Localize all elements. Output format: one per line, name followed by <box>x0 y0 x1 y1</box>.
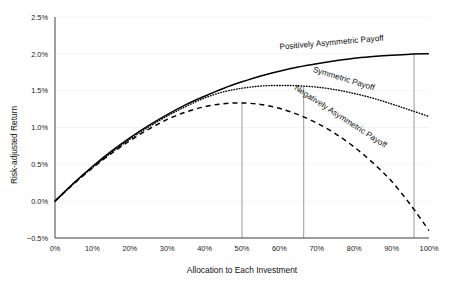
series-label-2: Negatively Asymmetric Payoff <box>293 83 389 150</box>
x-tick-label-3: 30% <box>160 244 175 253</box>
series-label-1: Symmetric Payoff <box>312 65 377 93</box>
x-tick-label-5: 50% <box>235 244 250 253</box>
y-tick-label-1: 2.0% <box>31 50 48 59</box>
risk-adjusted-return-chart: 2.5%2.0%1.5%1.0%0.5%0.0%−0.5% 0%10%20%30… <box>0 0 454 287</box>
y-tick-label-5: 0.0% <box>31 197 48 206</box>
x-axis-tick-labels: 0%10%20%30%40%50%60%70%80%90%100% <box>50 244 439 253</box>
y-tick-label-0: 2.5% <box>31 13 48 22</box>
x-tick-label-0: 0% <box>50 244 61 253</box>
series-label-0: Positively Asymmetric Payoff <box>279 33 385 51</box>
y-axis-title: Risk-adjusted Return <box>9 106 19 185</box>
x-tick-label-6: 60% <box>272 244 287 253</box>
x-tick-label-1: 10% <box>85 244 100 253</box>
x-tick-label-4: 40% <box>197 244 212 253</box>
x-tick-label-8: 80% <box>347 244 362 253</box>
x-tick-label-2: 20% <box>122 244 137 253</box>
y-tick-label-4: 0.5% <box>31 160 48 169</box>
x-tick-label-9: 90% <box>384 244 399 253</box>
x-axis-title: Allocation to Each Investment <box>187 265 298 275</box>
chart-canvas: 2.5%2.0%1.5%1.0%0.5%0.0%−0.5% 0%10%20%30… <box>0 0 454 287</box>
series-inline-labels: Positively Asymmetric PayoffSymmetric Pa… <box>279 33 389 150</box>
y-tick-label-6: −0.5% <box>27 234 49 243</box>
droplines-group <box>242 54 414 238</box>
x-tick-label-7: 70% <box>309 244 324 253</box>
y-axis-tick-labels: 2.5%2.0%1.5%1.0%0.5%0.0%−0.5% <box>27 13 49 243</box>
y-tick-label-2: 1.5% <box>31 86 48 95</box>
y-tick-label-3: 1.0% <box>31 123 48 132</box>
x-tick-label-10: 100% <box>420 244 439 253</box>
